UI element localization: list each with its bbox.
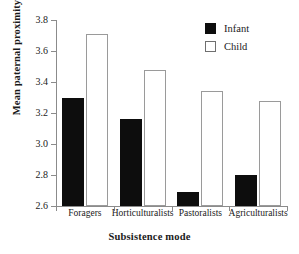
y-tick bbox=[51, 20, 56, 21]
bar-horticulturalists-child bbox=[144, 70, 166, 206]
bar-pastoralists-infant bbox=[177, 192, 199, 206]
bar-agriculturalists-infant bbox=[235, 175, 257, 206]
legend-swatch-infant-icon bbox=[205, 23, 216, 34]
y-axis-line bbox=[56, 20, 57, 206]
legend: Infant Child bbox=[205, 20, 249, 56]
x-category-label: Agriculturalists bbox=[217, 208, 299, 219]
bar-foragers-infant bbox=[62, 98, 84, 207]
y-tick-label: 3.2 bbox=[20, 108, 48, 118]
bar-foragers-child bbox=[86, 34, 108, 206]
y-tick-label: 3.6 bbox=[20, 46, 48, 56]
bar-pastoralists-child bbox=[201, 91, 223, 206]
bar-horticulturalists-infant bbox=[120, 119, 142, 206]
y-tick-label: 2.8 bbox=[20, 170, 48, 180]
y-tick bbox=[51, 175, 56, 176]
legend-label-infant: Infant bbox=[224, 23, 249, 34]
y-tick bbox=[51, 144, 56, 145]
legend-swatch-child-icon bbox=[205, 41, 216, 52]
plot-area: 2.62.83.03.23.43.63.8 ForagersHorticultu… bbox=[56, 20, 287, 206]
legend-item-infant: Infant bbox=[205, 20, 249, 36]
x-axis-title: Subsistence mode bbox=[0, 231, 299, 242]
legend-item-child: Child bbox=[205, 38, 249, 54]
y-tick-label: 3.8 bbox=[20, 15, 48, 25]
y-tick-label: 3.0 bbox=[20, 139, 48, 149]
bar-chart: Mean paternal proximity 2.62.83.03.23.43… bbox=[0, 0, 299, 254]
y-tick bbox=[51, 82, 56, 83]
y-tick bbox=[51, 51, 56, 52]
bar-agriculturalists-child bbox=[259, 101, 281, 206]
legend-label-child: Child bbox=[224, 41, 247, 52]
y-tick-label: 3.4 bbox=[20, 77, 48, 87]
y-tick bbox=[51, 113, 56, 114]
